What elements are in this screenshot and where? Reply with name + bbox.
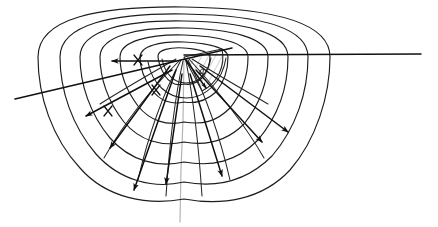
horizontal-axis-line	[184, 54, 421, 55]
canvas-background	[0, 0, 438, 227]
angle-label: a	[199, 64, 205, 76]
figure-root: a	[0, 0, 438, 227]
wavefront-contour-diagram: a	[0, 0, 438, 227]
